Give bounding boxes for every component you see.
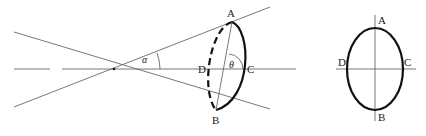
alpha-label: α xyxy=(142,54,148,65)
alpha-arc xyxy=(157,53,160,69)
theta-label: θ xyxy=(229,59,234,70)
left-view: α θ A B C D xyxy=(14,7,296,126)
diagram-canvas: α θ A B C D A B C D xyxy=(0,0,426,136)
label-a-right: A xyxy=(378,14,386,26)
label-c-left: C xyxy=(247,63,254,75)
right-view: A B C D xyxy=(336,14,416,123)
label-d-right: D xyxy=(338,56,346,68)
label-d-left: D xyxy=(198,63,206,75)
cone-line-lower xyxy=(14,32,270,109)
label-b-left: B xyxy=(212,114,219,126)
label-b-right: B xyxy=(378,111,385,123)
apex-point xyxy=(113,68,115,70)
label-a-left: A xyxy=(227,7,235,19)
label-c-right: C xyxy=(404,56,411,68)
